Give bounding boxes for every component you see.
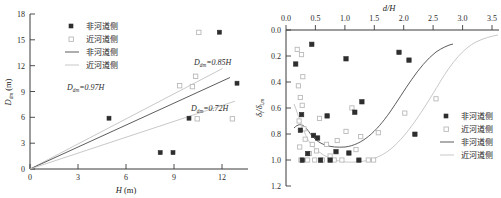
left-xtick-3: 9 [172, 173, 176, 182]
right-xtick-1: 0.5 [310, 14, 320, 23]
right-xtick-2: 1.0 [340, 14, 350, 23]
left-ytick-1: 3 [21, 139, 25, 148]
left-legend-label-2: 非河道侧 [86, 47, 118, 57]
left-fit-line-085 [30, 78, 230, 170]
left-ytick-0: 0 [21, 165, 25, 174]
chart-panel-left: 0 3 6 9 12 0 3 6 9 12 15 18 [0, 0, 250, 198]
right-x-ticks: 0.0 0.5 1.0 1.5 2.0 2.5 3.0 3.5 [281, 14, 497, 30]
right-ytick-5: 1.0 [271, 156, 281, 165]
right-legend-label-0: 非河道侧 [461, 111, 493, 121]
left-xtick-0: 0 [28, 173, 32, 182]
left-legend-label-3: 近河道侧 [86, 60, 118, 70]
right-xtick-6: 3.0 [458, 14, 468, 23]
right-legend: 非河道侧 近河道侧 非河道侧 近河道侧 [440, 111, 493, 160]
right-ytick-0: 0.0 [271, 26, 281, 35]
left-y-axis-label: Ddm (m) [3, 78, 14, 106]
right-legend-label-3: 近河道侧 [461, 150, 493, 160]
right-xtick-7: 3.5 [487, 14, 497, 23]
right-legend-label-1: 近河道侧 [461, 124, 493, 134]
right-legend-label-2: 非河道侧 [461, 137, 493, 147]
right-fit-curve-dark [294, 44, 453, 147]
left-legend: 非河道侧 近河道侧 非河道侧 近河道侧 [65, 21, 118, 70]
right-ytick-1: 0.2 [271, 52, 281, 61]
left-legend-marker-0 [69, 24, 73, 28]
right-legend-marker-1 [444, 127, 448, 131]
left-annotation-085: Ddm=0.85H [193, 58, 233, 68]
left-ytick-5: 15 [17, 36, 25, 45]
left-legend-label-1: 近河道侧 [86, 34, 118, 44]
left-y-ticks: 0 3 6 9 12 15 18 [17, 10, 35, 174]
right-xtick-0: 0.0 [281, 14, 291, 23]
right-legend-marker-0 [444, 114, 448, 118]
right-ytick-4: 0.8 [271, 130, 281, 139]
right-xtick-5: 2.5 [428, 14, 438, 23]
left-x-axis-label: H (m) [115, 185, 137, 195]
figure-container: 0 3 6 9 12 0 3 6 9 12 15 18 [0, 0, 501, 198]
left-ytick-6: 18 [17, 10, 25, 19]
right-ytick-2: 0.4 [271, 78, 281, 87]
chart-panel-right: 0.0 0.5 1.0 1.5 2.0 2.5 3.0 3.5 0.0 0.2 [250, 0, 501, 198]
left-xtick-1: 3 [76, 173, 80, 182]
right-chart-svg: 0.0 0.5 1.0 1.5 2.0 2.5 3.0 3.5 0.0 0.2 [250, 0, 501, 198]
left-legend-label-0: 非河道侧 [86, 21, 118, 31]
left-xtick-4: 12 [218, 173, 226, 182]
right-ytick-3: 0.6 [271, 104, 281, 113]
left-series-filled [107, 30, 239, 154]
left-legend-marker-1 [69, 37, 73, 41]
right-x-axis-label: d/H [383, 3, 397, 13]
right-ytick-6: 1.2 [271, 182, 281, 191]
right-series-open [295, 47, 438, 162]
left-ytick-4: 12 [17, 62, 25, 71]
left-xtick-2: 6 [124, 173, 128, 182]
left-annotation-072: Ddm=0.72H [190, 104, 230, 114]
left-x-ticks: 0 3 6 9 12 [28, 164, 226, 182]
right-y-ticks: 0.0 0.2 0.4 0.6 0.8 1.0 1.2 [271, 26, 291, 191]
left-ytick-3: 9 [21, 88, 25, 97]
right-y-axis-label: δi/δi,m [254, 99, 265, 117]
left-chart-svg: 0 3 6 9 12 0 3 6 9 12 15 18 [0, 0, 250, 198]
right-xtick-3: 1.5 [369, 14, 379, 23]
right-xtick-4: 2.0 [399, 14, 409, 23]
left-fit-line-097 [30, 69, 223, 170]
left-ytick-2: 6 [21, 113, 25, 122]
left-annotation-097: Ddm=0.97H [66, 83, 106, 93]
